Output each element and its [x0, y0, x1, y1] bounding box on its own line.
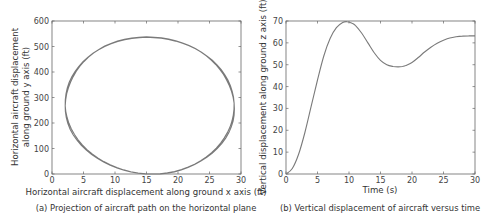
- panel-b-ytick-label: 70: [273, 17, 283, 26]
- panel-b-ylabel: Vertical displacement along ground z axi…: [258, 0, 268, 195]
- panel-a-ylabel-line1: Horizontal aircraft displacement: [10, 27, 20, 166]
- panel-a-xtick-label: 0: [49, 176, 54, 185]
- panel-a-xtick-label: 5: [81, 176, 86, 185]
- panel-b-ytick-label: 60: [273, 39, 283, 48]
- panel-a-xtick-label: 20: [173, 176, 183, 185]
- panel-b-displacement-line: [286, 22, 475, 174]
- panel-b-ytick-label: 10: [273, 148, 283, 157]
- panel-a-caption: (a) Projection of aircraft path on the h…: [36, 203, 257, 213]
- figure: 0510152025300100200300400500600 Horizont…: [0, 0, 489, 223]
- panel-b-ytick-label: 30: [273, 104, 283, 113]
- panel-a-path-line: [65, 37, 234, 174]
- panel-a-xtick-label: 15: [141, 176, 151, 185]
- panel-b-ytick-label: 50: [273, 61, 283, 70]
- panel-b-xlabel: Time (s): [362, 185, 398, 195]
- panel-a-ytick-label: 600: [34, 17, 49, 26]
- panel-b-xtick-label: 10: [344, 176, 354, 185]
- panel-a-ytick-label: 400: [34, 68, 49, 77]
- panel-b-axes-frame: [286, 21, 475, 174]
- panel-a-projection-plot: 0510152025300100200300400500600 Horizont…: [10, 17, 267, 213]
- panel-a-xtick-label: 10: [110, 176, 120, 185]
- panel-a-ytick-label: 500: [34, 43, 49, 52]
- panel-a-ytick-label: 100: [34, 145, 49, 154]
- panel-b-ticks: 051015202530010203040506070: [273, 17, 480, 185]
- panel-b-vertical-displacement-plot: 051015202530010203040506070 Time (s) Ver…: [258, 0, 480, 213]
- panel-b-ytick-label: 40: [273, 83, 283, 92]
- panel-b-xtick-label: 5: [315, 176, 320, 185]
- panel-b-caption: (b) Vertical displacement of aircraft ve…: [280, 203, 480, 213]
- panel-a-ytick-label: 0: [44, 170, 49, 179]
- panel-b-xtick-label: 25: [438, 176, 448, 185]
- panel-a-xtick-label: 30: [236, 176, 246, 185]
- panel-b-xtick-label: 30: [470, 176, 480, 185]
- panel-a-ylabel-line2: along ground y axis (ft): [21, 47, 31, 147]
- panel-b-xtick-label: 15: [375, 176, 385, 185]
- panel-b-xtick-label: 20: [407, 176, 417, 185]
- panel-b-xtick-label: 0: [283, 176, 288, 185]
- panel-a-ytick-label: 300: [34, 94, 49, 103]
- panel-a-xtick-label: 25: [204, 176, 214, 185]
- panel-b-ytick-label: 0: [278, 170, 283, 179]
- panel-b-ytick-label: 20: [273, 126, 283, 135]
- panel-a-ytick-label: 200: [34, 119, 49, 128]
- panel-a-xlabel: Horizontal aircraft displacement along g…: [25, 187, 266, 197]
